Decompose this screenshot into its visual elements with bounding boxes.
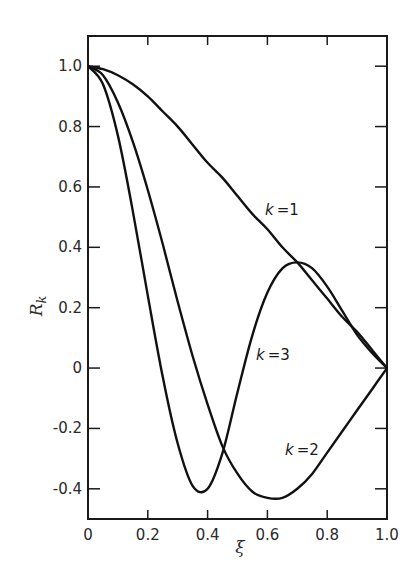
curve-label-k1-var: k	[265, 201, 275, 219]
curve-label-k3: k=3	[256, 346, 290, 364]
curve-label-k3-var: k	[256, 346, 266, 364]
y-axis-title-main: R	[26, 303, 46, 317]
x-tick-label: 0.6	[255, 526, 279, 544]
x-tick-label: 0.2	[136, 526, 160, 544]
y-tick-label: 0	[72, 359, 82, 377]
curve-label-k2-value: =2	[297, 441, 319, 459]
y-axis-title-sub: k	[34, 296, 49, 304]
y-tick-label: 0.4	[58, 238, 82, 256]
x-tick-label: 0.4	[196, 526, 220, 544]
curve-k2	[88, 66, 387, 499]
y-tick-label: 0.8	[58, 118, 82, 136]
x-tick-label: 0	[83, 526, 93, 544]
y-axis-title: Rk	[26, 296, 49, 318]
axis-ticks: 00.20.40.60.81.01.00.80.60.40.20-0.2-0.4	[53, 36, 399, 544]
curve-label-k1-value: =1	[277, 201, 299, 219]
y-tick-label: 0.2	[58, 299, 82, 317]
curve-label-k2: k=2	[285, 441, 319, 459]
x-axis-title: ξ	[235, 537, 246, 557]
curves	[88, 66, 387, 499]
curve-label-k3-value: =3	[268, 346, 290, 364]
y-tick-label: -0.4	[53, 480, 82, 498]
y-tick-label: 0.6	[58, 178, 82, 196]
y-tick-label: -0.2	[53, 419, 82, 437]
y-tick-label: 1.0	[58, 57, 82, 75]
curve-k3	[88, 66, 387, 492]
x-tick-label: 1.0	[375, 526, 399, 544]
chart-canvas: 00.20.40.60.81.01.00.80.60.40.20-0.2-0.4…	[0, 0, 418, 587]
x-tick-label: 0.8	[315, 526, 339, 544]
curve-label-k1: k=1	[265, 201, 299, 219]
plot-frame	[88, 36, 387, 519]
curve-label-k2-var: k	[285, 441, 295, 459]
plot-border	[88, 36, 387, 519]
